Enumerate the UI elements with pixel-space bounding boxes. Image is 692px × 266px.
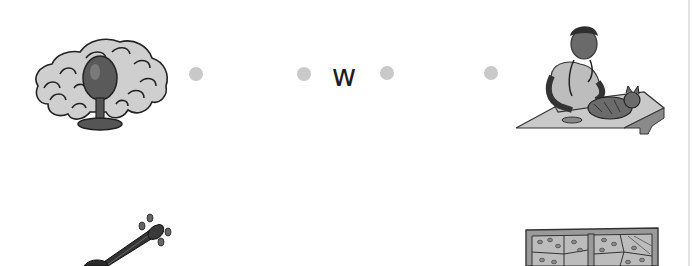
target-letter: w [326,60,362,92]
match-dot-1[interactable] [189,67,203,81]
window-icon [524,224,660,266]
match-dot-4[interactable] [484,66,498,80]
violin-icon [84,210,174,266]
match-dot-3[interactable] [380,66,394,80]
match-dot-2[interactable] [297,67,311,81]
page-edge-divider [688,0,690,266]
vet-examining-cat-icon [512,16,672,138]
wig-on-stand-icon [30,28,175,133]
worksheet-page: w [0,0,692,266]
